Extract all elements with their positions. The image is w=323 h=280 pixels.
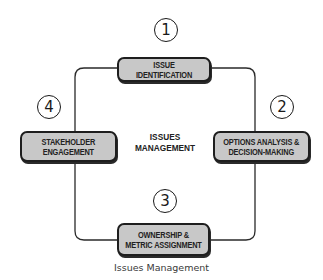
step-4-label: STAKEHOLDER ENGAGEMENT <box>42 137 96 157</box>
connector-1-to-4 <box>75 68 117 131</box>
step-1-issue-identification-box: ISSUE IDENTIFICATION <box>117 57 211 82</box>
connector-4-to-3 <box>75 162 117 240</box>
step-3-number: 3 <box>160 192 170 210</box>
step-1-number: 1 <box>161 21 171 39</box>
step-4-stakeholder-engagement-box: STAKEHOLDER ENGAGEMENT <box>20 131 117 162</box>
step-4-number-badge: 4 <box>37 95 61 119</box>
step-4-number: 4 <box>44 98 54 116</box>
center-title: ISSUES MANAGEMENT <box>129 132 201 153</box>
step-3-number-badge: 3 <box>153 189 177 213</box>
figure-caption: Issues Management <box>0 262 323 273</box>
step-1-label: ISSUE IDENTIFICATION <box>125 60 202 80</box>
step-2-number: 2 <box>277 98 287 116</box>
step-2-options-analysis-box: OPTIONS ANALYSIS & DECISION-MAKING <box>213 131 310 162</box>
step-3-ownership-box: OWNERSHIP & METRIC ASSIGNMENT <box>117 223 210 256</box>
connector-1-to-2 <box>211 68 255 131</box>
step-1-number-badge: 1 <box>154 18 178 42</box>
step-2-label: OPTIONS ANALYSIS & DECISION-MAKING <box>223 137 299 157</box>
issues-management-diagram: 1 ISSUE IDENTIFICATION 2 OPTIONS ANALYSI… <box>0 0 323 280</box>
step-2-number-badge: 2 <box>270 95 294 119</box>
connector-2-to-3 <box>210 162 255 240</box>
step-3-label: OWNERSHIP & METRIC ASSIGNMENT <box>125 230 201 250</box>
